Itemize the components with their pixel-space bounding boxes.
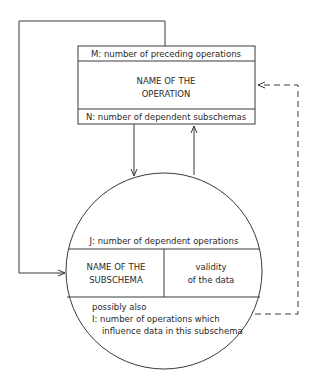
operation-top-label: M: number of preceding operations [91,49,242,59]
operation-name-line1: NAME OF THE [137,76,196,86]
subschema-name-line2: SUBSCHEMA [89,275,143,285]
extra-line3: influence data in this subschema [102,326,243,336]
validity-line2: of the data [188,275,235,285]
diagram-canvas: M: number of preceding operations NAME O… [0,0,316,382]
extra-line1: possibly also [92,302,147,312]
operation-bottom-label: N: number of dependent subschemas [86,112,247,122]
subschema-name-line1: NAME OF THE [87,262,146,272]
validity-line1: validity [195,262,226,272]
extra-line2: I: number of operations which [92,314,220,324]
operation-name-line2: OPERATION [142,89,191,99]
subschema-top-label: J: number of dependent operations [89,236,239,246]
